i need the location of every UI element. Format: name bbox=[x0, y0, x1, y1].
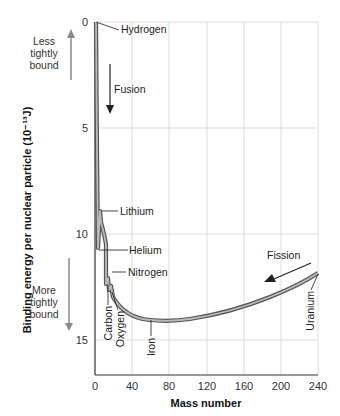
label-iron: Iron bbox=[145, 338, 157, 356]
label-nitrogen: Nitrogen bbox=[128, 266, 168, 278]
y-tick-0: 0 bbox=[82, 16, 88, 28]
x-tick-80: 80 bbox=[163, 380, 175, 392]
x-tick-200: 200 bbox=[272, 380, 290, 392]
label-less-3: bound bbox=[29, 59, 58, 71]
more-tightly-bound-arrow-icon bbox=[65, 258, 73, 331]
label-hydrogen: Hydrogen bbox=[121, 23, 167, 35]
x-tick-160: 160 bbox=[235, 380, 253, 392]
label-fusion: Fusion bbox=[114, 83, 146, 95]
x-tick-0: 0 bbox=[92, 380, 98, 392]
axes bbox=[95, 22, 318, 375]
y-tick-15: 15 bbox=[76, 334, 88, 346]
x-tick-240: 240 bbox=[309, 380, 327, 392]
x-tick-120: 120 bbox=[198, 380, 216, 392]
x-axis-title: Mass number bbox=[171, 397, 243, 409]
fusion-arrow-icon bbox=[106, 64, 114, 114]
x-tick-40: 40 bbox=[126, 380, 138, 392]
label-fission: Fission bbox=[267, 249, 300, 261]
label-uranium: Uranium bbox=[304, 291, 316, 331]
label-lithium: Lithium bbox=[120, 205, 154, 217]
label-less-2: tightly bbox=[30, 47, 58, 59]
label-less-1: Less bbox=[33, 35, 55, 47]
binding-energy-chart: 0 5 10 15 0 40 80 120 160 200 240 Mass n… bbox=[0, 0, 340, 416]
y-tick-5: 5 bbox=[82, 122, 88, 134]
label-oxygen: Oxygen bbox=[114, 311, 126, 347]
less-tightly-bound-arrow-icon bbox=[67, 29, 75, 80]
label-more-3: bound bbox=[29, 308, 58, 320]
gridlines bbox=[95, 22, 318, 375]
label-carbon: Carbon bbox=[102, 306, 114, 341]
label-helium: Helium bbox=[129, 244, 162, 256]
label-more-1: More bbox=[32, 284, 56, 296]
y-tick-10: 10 bbox=[76, 228, 88, 240]
label-more-2: tightly bbox=[30, 296, 58, 308]
